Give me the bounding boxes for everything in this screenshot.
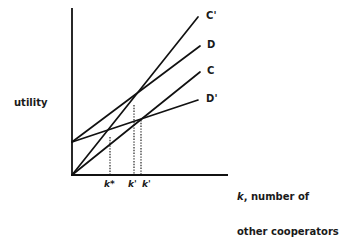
curve-c (72, 72, 200, 175)
curve-c-prime (72, 17, 198, 175)
x-axis-label-line1-rest: , number of (244, 191, 310, 202)
curve-label-d-prime: D' (206, 93, 218, 105)
x-axis-label-line2: other cooperators (237, 226, 339, 238)
curve-label-c: C (207, 65, 215, 77)
curve-label-c-prime: C' (206, 10, 217, 22)
x-axis-label: k, number of other cooperators (237, 167, 339, 240)
tick-label-k-star: k* (104, 179, 115, 190)
curve-label-d: D (207, 39, 216, 51)
curve-d-prime (72, 100, 198, 142)
curve-d (72, 46, 200, 142)
tick-label-k-prime-1: k' (128, 179, 137, 190)
tick-label-k-prime-2: k' (142, 179, 151, 190)
x-axis-label-k-symbol: k (237, 191, 244, 202)
y-axis-label: utility (14, 97, 47, 109)
x-axis-label-line1: k, number of (237, 191, 339, 203)
